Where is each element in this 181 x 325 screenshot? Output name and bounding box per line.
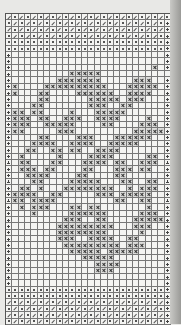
knitting-chart-grid [5,13,171,325]
page-edge-shadow [170,0,181,324]
